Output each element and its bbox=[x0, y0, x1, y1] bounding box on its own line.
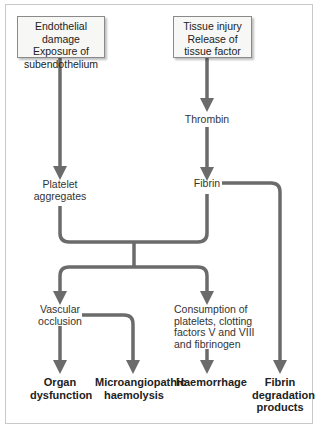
outcome-line: degradation bbox=[252, 389, 308, 402]
outcome-line: Organ bbox=[30, 376, 90, 389]
vascular-occlusion-node: Vascular occlusion bbox=[35, 304, 85, 327]
fibrin-node: Fibrin bbox=[190, 178, 224, 190]
organ-dysfunction-outcome: Organ dysfunction bbox=[30, 376, 90, 401]
endothelial-damage-box: Endothelial damage Exposure of subendoth… bbox=[17, 16, 105, 58]
platelet-aggregates-node: Platelet aggregates bbox=[30, 179, 90, 202]
box-line: subendothelium bbox=[18, 58, 104, 71]
outcome-line: Fibrin bbox=[252, 376, 308, 389]
tissue-injury-box: Tissue injury Release of tissue factor bbox=[173, 16, 252, 58]
node-line: Consumption of bbox=[174, 304, 264, 316]
outcome-line: products bbox=[252, 401, 308, 414]
outcome-line: Haemorrhage bbox=[176, 376, 240, 389]
node-line: occlusion bbox=[35, 316, 85, 328]
microangiopathic-haemolysis-outcome: Microangiopathic haemolysis bbox=[95, 376, 173, 401]
node-line: factors V and VIII bbox=[174, 327, 264, 339]
node-line: Vascular bbox=[35, 304, 85, 316]
box-line: tissue factor bbox=[174, 45, 251, 58]
fibrin-degradation-products-outcome: Fibrin degradation products bbox=[252, 376, 308, 414]
node-line: aggregates bbox=[30, 191, 90, 203]
node-line: Platelet bbox=[30, 179, 90, 191]
consumption-node: Consumption of platelets, clotting facto… bbox=[174, 304, 264, 350]
box-line: Tissue injury bbox=[174, 20, 251, 33]
box-line: Endothelial damage bbox=[18, 20, 104, 45]
haemorrhage-outcome: Haemorrhage bbox=[176, 376, 240, 389]
box-line: Release of bbox=[174, 33, 251, 46]
thrombin-node: Thrombin bbox=[180, 114, 234, 126]
outcome-line: dysfunction bbox=[30, 389, 90, 402]
box-line: Exposure of bbox=[18, 45, 104, 58]
node-line: and fibrinogen bbox=[174, 339, 264, 351]
outcome-line: Microangiopathic bbox=[95, 376, 173, 389]
outcome-line: haemolysis bbox=[95, 389, 173, 402]
